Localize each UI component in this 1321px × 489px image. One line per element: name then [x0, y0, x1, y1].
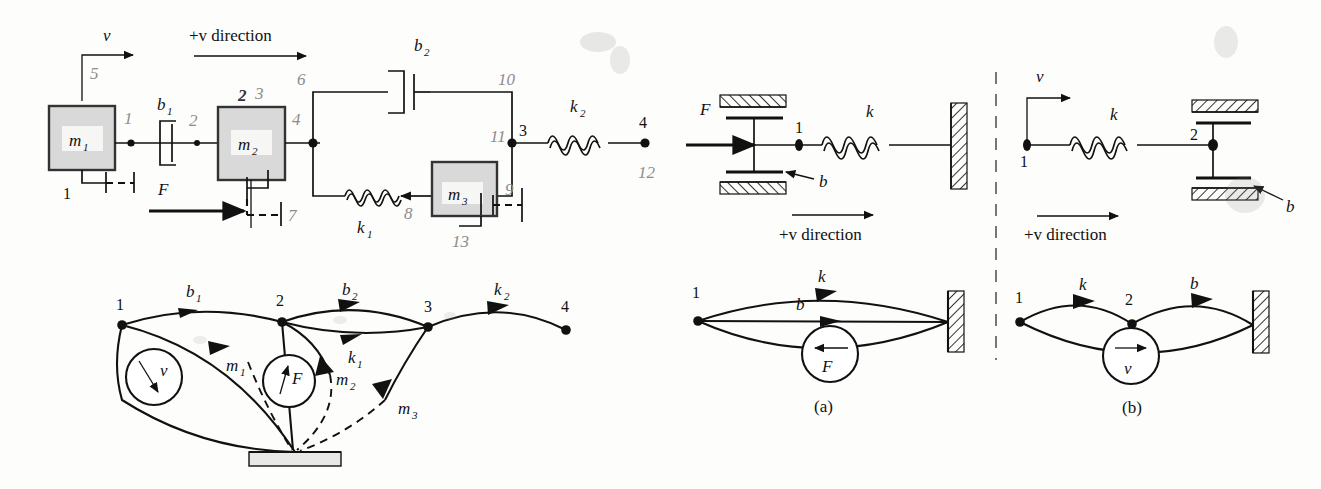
output-branch-k2: 3 k 2 4 12 [507, 97, 655, 182]
graph-edge-b1-label: b [186, 282, 195, 301]
panel-a-graph-ground [948, 291, 964, 352]
spring-k2-sub: 2 [580, 107, 586, 119]
pencil-annotation-12: 12 [638, 163, 656, 182]
panel-b-graph-node-1 [1015, 317, 1025, 327]
panel-b-node-label-1: 1 [1020, 153, 1028, 170]
panel-a-direction-label: +v direction [779, 225, 862, 244]
graph-edge-k1-label: k [348, 348, 356, 367]
damper-b1-label: b [157, 95, 166, 114]
panel-b-graph-edge-k-label: k [1079, 275, 1087, 294]
panel-b-graph-edge-k: k [1020, 275, 1132, 324]
spring-k1-sub: 1 [367, 228, 373, 240]
mass-block-m1: m 1 1 [49, 106, 115, 202]
mass-block-m2: m 2 2 3 [218, 84, 285, 180]
panel-b-velocity-arrow-icon [1027, 98, 1070, 145]
panel-b-direction-annotation: +v direction [1024, 216, 1118, 244]
panel-b-spring-label: k [1110, 105, 1118, 124]
panel-a-graph-edge-b-label: b [796, 295, 805, 314]
node-label-3: 3 [519, 122, 527, 139]
graph-edge-b2-sub: 2 [352, 290, 358, 302]
force-input-F: F [149, 180, 251, 228]
pencil-annotation-10: 10 [498, 70, 516, 89]
panel-a-force-label: F [699, 100, 711, 119]
pencil-annotation-4: 4 [292, 110, 301, 129]
graph-edge-k2-label: k [494, 280, 502, 299]
plus-v-direction-annotation: +v direction [189, 26, 306, 56]
graph-edge-b2: b 2 [282, 280, 428, 327]
panel-a-node-label-1: 1 [795, 119, 803, 136]
node-label-4: 4 [639, 114, 647, 131]
panel-b-velocity-source: v [1027, 67, 1070, 145]
graph-node-label-3: 3 [424, 298, 432, 315]
graph-edge-k2-sub: 2 [504, 290, 510, 302]
pencil-annotation-7: 7 [288, 206, 298, 225]
panel-b-direction-label: +v direction [1024, 225, 1107, 244]
pencil-annotation-9: 9 [505, 180, 514, 199]
pencil-annotation-5: 5 [90, 64, 99, 83]
graph-edge-m1-sub: 1 [240, 366, 246, 378]
bottom-left-linear-graph: 1 2 3 4 b 1 m 1 v b 2 [116, 280, 571, 466]
damper-b1-sub: 1 [167, 105, 173, 117]
panel-a-graph-source-F: F [698, 321, 948, 382]
panel-a-damper-label: b [819, 172, 828, 191]
graph-edge-m1-label: m [226, 356, 238, 375]
graph-source-F: F [263, 322, 315, 450]
graph-node-label-2: 2 [276, 292, 284, 309]
mass-m1-label: m [69, 131, 81, 150]
mass-block-m3: m 3 13 [432, 162, 497, 251]
panel-b-caption: (b) [1122, 398, 1142, 417]
panel-b-graph-source-v-label: v [1124, 359, 1132, 378]
damper-b1: b 1 2 [157, 95, 218, 165]
ground-symbol-m1 [82, 170, 134, 193]
panel-a-spring-label: k [866, 102, 874, 121]
graph-source-v-label: v [160, 361, 168, 380]
panel-a-graph-edge-k: k [698, 267, 948, 322]
panel-a-right-wall [951, 103, 967, 189]
panel-a-mechanical: b F 1 k +v direction [686, 95, 967, 244]
graph-edge-k1-sub: 1 [357, 358, 363, 370]
panel-a-graph-source-F-label: F [821, 357, 833, 376]
panel-b-mechanical: v 1 k 2 b [1020, 67, 1295, 244]
graph-edge-k2: k 2 [428, 280, 566, 330]
pencil-annotation-2: 2 [189, 111, 198, 130]
panel-b-node-label-2: 2 [1190, 126, 1198, 143]
panel-b-upper-wall [1192, 100, 1258, 112]
graph-edge-m3-sub: 3 [411, 409, 418, 421]
pencil-annotation-11: 11 [490, 127, 506, 146]
figure-canvas: +v direction v 5 m 1 1 1 [0, 0, 1321, 489]
graph-edge-m3: m 3 [300, 327, 428, 451]
ground-label-1: 1 [63, 185, 71, 202]
velocity-label: v [103, 26, 111, 45]
panel-b-graph-edge-b: b [1132, 274, 1253, 325]
panel-b-graph-node-label-2: 2 [1125, 291, 1133, 308]
panel-b-graph-node-label-1: 1 [1015, 289, 1023, 306]
graph-edge-b1-sub: 1 [196, 292, 202, 304]
graph-edge-m3-label: m [398, 399, 410, 418]
pencil-annotation-1: 1 [124, 109, 133, 128]
graph-source-F-label: F [291, 369, 303, 388]
node-point-1: 1 [115, 109, 172, 147]
panel-a-damper-leader-icon [786, 172, 814, 179]
force-label-F: F [157, 180, 169, 199]
spring-k1: k 1 8 [345, 190, 432, 240]
panel-b-graph-source-v: v [1020, 322, 1253, 384]
panel-b-graph-node-2 [1127, 319, 1137, 329]
mass-m2-sub: 2 [252, 145, 258, 157]
panel-a-upper-wall [720, 95, 786, 107]
graph-node-label-1: 1 [116, 296, 124, 313]
spring-k2-label: k [570, 97, 578, 116]
panel-a-graph: 1 k b F (a) [692, 267, 964, 416]
graph-node-3 [423, 322, 433, 332]
graph-node-2 [277, 317, 287, 327]
panel-a-spring-branch: 1 k [754, 102, 951, 159]
panel-a-caption: (a) [814, 397, 833, 416]
figure-svg: +v direction v 5 m 1 1 1 [0, 0, 1321, 489]
panel-b-graph-ground [1253, 291, 1269, 353]
graph-edge-m2-label: m [336, 370, 348, 389]
damper-b2: b 2 [388, 36, 430, 113]
plus-v-direction-label: +v direction [189, 26, 272, 45]
velocity-source-circle [126, 349, 182, 405]
mass-m1-sub: 1 [83, 141, 89, 153]
force-source-circle [263, 355, 315, 407]
panel-a-direction-annotation: +v direction [779, 215, 873, 244]
